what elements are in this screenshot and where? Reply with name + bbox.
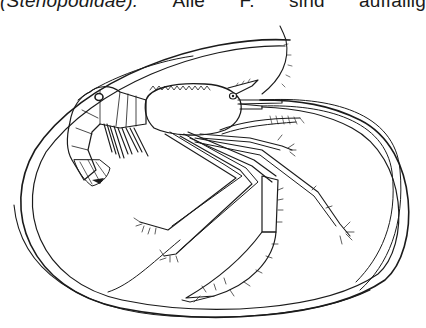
shrimp-illustration-icon bbox=[0, 0, 426, 328]
large-claw bbox=[182, 132, 283, 302]
walking-legs bbox=[134, 132, 354, 262]
pleopods bbox=[104, 124, 148, 158]
shrimp-figure bbox=[0, 0, 426, 328]
antenna-upper bbox=[262, 26, 292, 94]
carapace bbox=[145, 79, 258, 135]
oval-frame bbox=[14, 40, 409, 318]
